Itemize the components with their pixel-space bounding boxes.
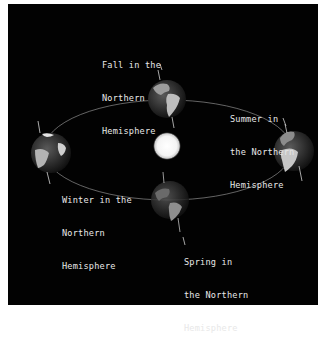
- label-fall: Fall in the Northern Hemisphere: [102, 38, 161, 148]
- label-spring: Spring in the Northern Hemisphere: [184, 235, 249, 337]
- label-winter: Winter in the Northern Hemisphere: [62, 173, 132, 283]
- label-line: Winter in the: [62, 195, 132, 206]
- label-line: Hemisphere: [62, 261, 132, 272]
- label-line: Northern: [62, 228, 132, 239]
- label-line: Fall in the: [102, 60, 161, 71]
- label-line: the Northern: [184, 290, 249, 301]
- label-line: Hemisphere: [230, 180, 295, 191]
- label-line: Northern: [102, 93, 161, 104]
- label-summer: Summer in the Northern Hemisphere: [230, 92, 295, 202]
- label-line: Summer in: [230, 114, 295, 125]
- label-line: Hemisphere: [102, 126, 161, 137]
- label-line: the Northern: [230, 147, 295, 158]
- label-line: Hemisphere: [184, 323, 249, 334]
- earth-spring-icon: [151, 172, 189, 232]
- label-line: Spring in: [184, 257, 249, 268]
